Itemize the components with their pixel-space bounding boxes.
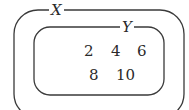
element-8: 8 <box>89 67 99 83</box>
element-2: 2 <box>84 43 94 59</box>
element-6: 6 <box>137 43 147 59</box>
venn-diagram <box>0 0 189 110</box>
inner-set-y-boundary <box>34 27 164 95</box>
set-x-label: X <box>49 3 64 18</box>
element-4: 4 <box>111 43 121 59</box>
set-y-label: Y <box>120 20 134 35</box>
element-10: 10 <box>116 67 135 83</box>
